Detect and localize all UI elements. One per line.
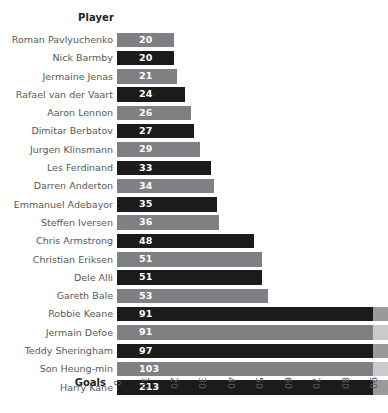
bar-value-label: 91	[139, 325, 153, 340]
x-axis-tick-label: 0	[111, 380, 123, 386]
bar-row-label: Les Ferdinand	[0, 161, 113, 175]
bar-value-label: 24	[139, 87, 153, 102]
bar-row: Aaron Lennon26	[0, 104, 388, 122]
bar-value-label: 20	[139, 51, 153, 66]
bar-track: 53	[117, 289, 388, 304]
bar-row-label: Dimitar Berbatov	[0, 124, 113, 138]
bar-row-label: Aaron Lennon	[0, 106, 113, 120]
x-axis-tick: 30	[196, 377, 208, 389]
x-axis-tick-label: 40	[225, 377, 237, 389]
bar-track: 48	[117, 234, 388, 249]
bar-row: Jermain Defoe91	[0, 324, 388, 342]
x-axis-tick: 60	[282, 377, 294, 389]
bar-row: Robbie Keane91	[0, 305, 388, 323]
bar-rows-container: Roman Pavlyuchenko20Nick Barmby20Jermain…	[0, 31, 388, 397]
x-axis-title: Goals	[0, 377, 106, 389]
x-axis-tick-label: 60	[282, 377, 294, 389]
bar	[117, 307, 373, 322]
bar	[117, 106, 191, 121]
bar-track: 27	[117, 124, 388, 139]
bar-row-label: Son Heung-min	[0, 362, 113, 376]
bar-row: Emmanuel Adebayor35	[0, 196, 388, 214]
bar-clipped-continuation	[373, 344, 388, 359]
bar-value-label: 48	[139, 234, 153, 249]
bar-row-label: Christian Eriksen	[0, 253, 113, 267]
bar	[117, 179, 214, 194]
bar-row: Les Ferdinand33	[0, 159, 388, 177]
bar-track: 20	[117, 51, 388, 66]
bar-track: 36	[117, 215, 388, 230]
x-axis-tick-label: 50	[253, 377, 265, 389]
bar	[117, 215, 219, 230]
bar-value-label: 26	[139, 106, 153, 121]
x-axis-tick: 20	[168, 377, 180, 389]
bar-track: 34	[117, 179, 388, 194]
bar-row: Son Heung-min103	[0, 360, 388, 378]
bar-row-label: Roman Pavlyuchenko	[0, 33, 113, 47]
bar	[117, 124, 194, 139]
bar-row: Teddy Sheringham97	[0, 342, 388, 360]
x-axis-tick: 80	[339, 377, 351, 389]
bar	[117, 344, 373, 359]
bar-row: Dimitar Berbatov27	[0, 122, 388, 140]
x-axis-tick: 90	[367, 377, 379, 389]
bar-row: Jermaine Jenas21	[0, 68, 388, 86]
bar-row-label: Rafael van der Vaart	[0, 88, 113, 102]
x-axis-tick-label: 10	[139, 377, 151, 389]
bar-value-label: 97	[139, 344, 153, 359]
bar-clipped-continuation	[373, 362, 388, 377]
bar-row: Darren Anderton34	[0, 177, 388, 195]
bar-track: 35	[117, 197, 388, 212]
bar-row-label: Jurgen Klinsmann	[0, 143, 113, 157]
bar-row: Rafael van der Vaart24	[0, 86, 388, 104]
bar-track: 33	[117, 161, 388, 176]
bar-row-label: Jermaine Jenas	[0, 70, 113, 84]
horizontal-bar-chart: Player Roman Pavlyuchenko20Nick Barmby20…	[0, 0, 388, 413]
bar	[117, 142, 200, 157]
bar	[117, 197, 217, 212]
bar-value-label: 36	[139, 215, 153, 230]
bar-value-label: 51	[139, 252, 153, 267]
bar-row-label: Dele Alli	[0, 271, 113, 285]
x-axis-tick-label: 90	[367, 377, 379, 389]
bar-row-label: Chris Armstrong	[0, 234, 113, 248]
bar-row: Roman Pavlyuchenko20	[0, 31, 388, 49]
bar-track: 24	[117, 87, 388, 102]
x-axis: Goals 0102030405060708090	[0, 377, 388, 413]
bar-track: 91	[117, 325, 388, 340]
bar-row: Dele Alli51	[0, 269, 388, 287]
x-axis-tick-label: 70	[310, 377, 322, 389]
x-axis-tick: 70	[310, 377, 322, 389]
bar-value-label: 53	[139, 289, 153, 304]
x-axis-tick-label: 80	[339, 377, 351, 389]
bar-track: 26	[117, 106, 388, 121]
x-axis-tick-label: 30	[196, 377, 208, 389]
bar-row: Steffen Iversen36	[0, 214, 388, 232]
bar-row-label: Darren Anderton	[0, 179, 113, 193]
bar-row: Gareth Bale53	[0, 287, 388, 305]
bar-row: Nick Barmby20	[0, 49, 388, 67]
bar-value-label: 29	[139, 142, 153, 157]
bar-track: 51	[117, 270, 388, 285]
bar-value-label: 20	[139, 33, 153, 48]
x-axis-tick-label: 20	[168, 377, 180, 389]
x-axis-tick: 0	[111, 377, 123, 389]
bar-value-label: 35	[139, 197, 153, 212]
bar-row: Christian Eriksen51	[0, 251, 388, 269]
bar	[117, 325, 373, 340]
player-column-header: Player	[0, 12, 114, 23]
bar-row-label: Nick Barmby	[0, 51, 113, 65]
x-axis-tick: 40	[225, 377, 237, 389]
x-axis-tick: 10	[139, 377, 151, 389]
bar-value-label: 33	[139, 161, 153, 176]
x-axis-tick: 50	[253, 377, 265, 389]
bar-value-label: 21	[139, 69, 153, 84]
bar-clipped-continuation	[373, 325, 388, 340]
bar-track: 29	[117, 142, 388, 157]
bar-track: 51	[117, 252, 388, 267]
bar-track: 97	[117, 344, 388, 359]
bar-value-label: 51	[139, 270, 153, 285]
bar-value-label: 34	[139, 179, 153, 194]
bar-row-label: Jermain Defoe	[0, 326, 113, 340]
bar-row: Chris Armstrong48	[0, 232, 388, 250]
